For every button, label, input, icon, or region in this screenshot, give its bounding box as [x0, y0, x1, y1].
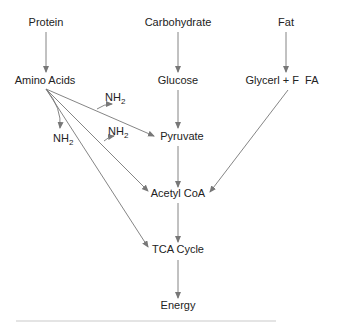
node-fat: Fat	[278, 16, 294, 28]
pathway-diagram: Protein Carbohydrate Fat Amino Acids Glu…	[0, 0, 338, 323]
edge-amino-tca	[46, 89, 148, 247]
node-amino-acids: Amino Acids	[15, 74, 76, 86]
caption-bar	[16, 320, 276, 322]
node-protein: Protein	[29, 16, 64, 28]
node-pyruvate: Pyruvate	[160, 130, 203, 142]
node-acetyl-coa: Acetyl CoA	[151, 187, 206, 199]
node-energy: Energy	[161, 299, 196, 311]
nodes: Protein Carbohydrate Fat Amino Acids Glu…	[15, 16, 319, 311]
node-glucose: Glucose	[158, 74, 198, 86]
edges	[46, 32, 288, 298]
edge-glycerol-acetyl-coa	[210, 90, 288, 192]
node-carbohydrate: Carbohydrate	[145, 16, 212, 28]
edge-nh2-release-1	[97, 104, 112, 109]
edge-amino-pyruvate	[46, 89, 154, 136]
node-glycerol-fa: Glycerl + F FA	[245, 74, 319, 86]
label-nh2-top: NH2	[105, 91, 126, 106]
label-nh2-left: NH2	[53, 132, 74, 147]
label-nh2-middle: NH2	[108, 125, 129, 140]
node-tca-cycle: TCA Cycle	[152, 243, 204, 255]
